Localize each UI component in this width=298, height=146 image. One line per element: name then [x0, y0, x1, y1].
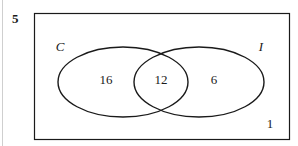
set-label-c: C — [56, 39, 65, 54]
region-value-outside-both: 1 — [267, 116, 274, 131]
region-value-c-and-i: 12 — [155, 72, 168, 87]
region-value-i-only: 6 — [211, 72, 218, 87]
venn-diagram-figure: 5 C I 16 12 6 1 — [0, 0, 298, 146]
venn-diagram-canvas: C I 16 12 6 1 — [0, 0, 298, 146]
region-value-c-only: 16 — [100, 72, 114, 87]
set-label-i: I — [258, 39, 264, 54]
